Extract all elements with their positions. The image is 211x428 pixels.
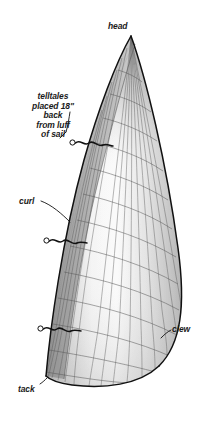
sail-diagram — [0, 0, 211, 428]
leader-curl — [41, 201, 70, 222]
diagram-page: head telltales placed 18" back from luff… — [0, 0, 211, 428]
telltale-attach-point — [44, 238, 49, 243]
label-curl: curl — [19, 197, 34, 207]
telltale-attach-point — [38, 326, 43, 331]
label-head: head — [108, 22, 127, 32]
label-tack: tack — [18, 385, 35, 395]
label-clew: clew — [172, 325, 190, 335]
label-telltales: telltales placed 18" back from luff of s… — [22, 92, 84, 140]
leader-tack — [40, 378, 47, 384]
telltale-attach-point — [70, 140, 75, 145]
